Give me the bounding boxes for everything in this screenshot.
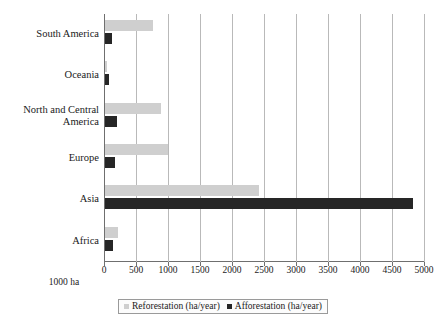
bar-chart: South America Oceania North and Central … [0,0,440,325]
legend-label: Reforestation (ha/year) [132,301,220,312]
bar-reforestation[interactable] [105,20,153,31]
bar-afforestation[interactable] [105,198,413,209]
legend-label: Afforestation (ha/year) [235,301,322,312]
y-axis-labels: South America Oceania North and Central … [0,14,99,262]
bar-group [104,179,424,220]
x-axis-tick-label: 4500 [383,264,402,276]
x-axis-tick-label: 5000 [415,264,434,276]
bar-group [104,55,424,96]
legend-item-afforestation[interactable]: Afforestation (ha/year) [227,301,322,312]
x-axis-tick-label: 3000 [287,264,306,276]
bar-reforestation[interactable] [105,144,168,155]
chart-legend[interactable]: Reforestation (ha/year) Afforestation (h… [118,299,328,314]
x-axis-tick-label: 1500 [191,264,210,276]
bar-reforestation[interactable] [105,61,107,72]
legend-item-reforestation[interactable]: Reforestation (ha/year) [124,301,220,312]
bar-afforestation[interactable] [105,33,112,44]
bar-afforestation[interactable] [105,240,113,251]
bar-group [104,97,424,138]
x-axis-tick-label: 3500 [319,264,338,276]
y-axis-tick-label: Africa [0,235,99,247]
legend-swatch-icon [227,304,232,309]
bar-afforestation[interactable] [105,74,109,85]
x-axis-tick-label: 2000 [223,264,242,276]
x-axis-tick-label: 1000 [159,264,178,276]
plot-area [104,14,424,262]
bar-reforestation[interactable] [105,103,161,114]
y-axis-tick-label: South America [0,28,99,40]
bar-reforestation[interactable] [105,185,259,196]
x-axis-labels: 0500100015002000250030003500400045005000 [0,264,440,278]
gridline [424,14,425,262]
bar-afforestation[interactable] [105,157,115,168]
y-axis-tick-label: Asia [0,193,99,205]
x-axis-title-text: 1000 ha [49,277,79,287]
bar-group [104,138,424,179]
y-axis-tick-label: Europe [0,152,99,164]
y-axis-tick-label: Oceania [0,69,99,81]
x-axis-title: 1000 ha [0,277,440,287]
x-axis-tick-label: 0 [102,264,107,276]
y-axis-tick-label: North and Central America [0,104,99,127]
bar-group [104,14,424,55]
bar-group [104,221,424,262]
legend-swatch-icon [124,304,129,309]
bar-reforestation[interactable] [105,227,118,238]
x-axis-tick-label: 2500 [255,264,274,276]
bar-afforestation[interactable] [105,116,117,127]
x-axis-tick-label: 4000 [351,264,370,276]
x-axis-tick-label: 500 [129,264,143,276]
